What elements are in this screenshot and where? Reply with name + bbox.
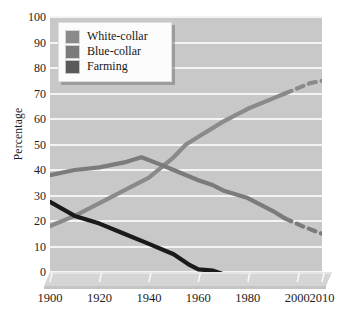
legend-label: Farming bbox=[87, 60, 128, 74]
y-tick-label: 100 bbox=[20, 11, 46, 23]
series-line-blue-collar-projected bbox=[285, 218, 322, 233]
legend-label: Blue-collar bbox=[87, 45, 141, 59]
x-tick-label: 2000 bbox=[285, 292, 310, 305]
x-tick-label: 2010 bbox=[310, 292, 335, 305]
legend-item[interactable]: White-collar bbox=[65, 30, 164, 44]
x-tick-label: 1920 bbox=[87, 292, 112, 305]
y-tick-label: 30 bbox=[20, 190, 46, 202]
axis-base-plinth bbox=[44, 272, 332, 289]
x-tick-label: 1940 bbox=[136, 292, 161, 305]
legend-item[interactable]: Farming bbox=[65, 60, 164, 74]
y-tick-label: 50 bbox=[20, 139, 46, 151]
legend-item[interactable]: Blue-collar bbox=[65, 45, 164, 59]
legend-label: White-collar bbox=[87, 30, 148, 44]
x-tick-label: 1900 bbox=[38, 292, 63, 305]
chart-container: Percentage 0102030405060708090100 White-… bbox=[0, 0, 338, 317]
series-line-white-collar-projected bbox=[285, 81, 322, 94]
legend-swatch-icon bbox=[65, 60, 80, 74]
y-tick-label: 40 bbox=[20, 164, 46, 176]
series-line-white-collar bbox=[50, 94, 285, 227]
y-tick-label: 90 bbox=[20, 37, 46, 49]
legend-swatch-icon bbox=[65, 45, 80, 59]
y-axis-tick-labels: 0102030405060708090100 bbox=[16, 0, 46, 317]
y-tick-label: 0 bbox=[20, 266, 46, 278]
y-tick-label: 60 bbox=[20, 113, 46, 125]
y-tick-label: 20 bbox=[20, 215, 46, 227]
x-tick-label: 1960 bbox=[186, 292, 211, 305]
legend-swatch-icon bbox=[65, 30, 80, 44]
chart-legend: White-collarBlue-collarFarming bbox=[58, 22, 172, 82]
x-tick-label: 1980 bbox=[235, 292, 260, 305]
y-tick-label: 70 bbox=[20, 88, 46, 100]
y-tick-label: 80 bbox=[20, 62, 46, 74]
y-tick-label: 10 bbox=[20, 241, 46, 253]
